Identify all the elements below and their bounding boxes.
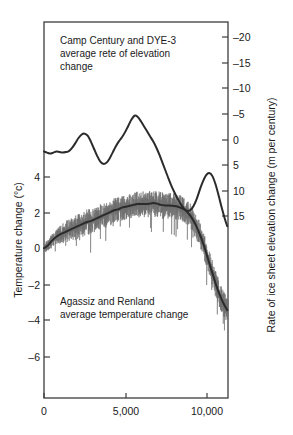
- annotation-temperature-line1: Agassiz and Renland: [60, 296, 155, 307]
- annotation-temperature: Agassiz and Renland average temperature …: [60, 296, 189, 320]
- right-tick-label: 15: [233, 210, 245, 222]
- bottom-tick-label: 0: [41, 405, 47, 417]
- left-tick-label: 2: [34, 207, 40, 219]
- bottom-tick-label: 10,000: [191, 405, 223, 417]
- annotation-elevation-line3: change: [60, 61, 93, 72]
- annotation-elevation-line2: average rete of elevation: [60, 48, 170, 59]
- right-tick-label: 5: [233, 159, 239, 171]
- right-tick-label: –15: [233, 57, 251, 69]
- right-tick-label: –10: [233, 82, 251, 94]
- left-axis-title: Temperature change (°c): [12, 182, 24, 298]
- annotation-elevation: Camp Century and DYE-3 average rete of e…: [60, 35, 177, 72]
- left-axis: 4 2 0 –2 –4 –6: [28, 171, 50, 363]
- annotation-elevation-line1: Camp Century and DYE-3: [60, 35, 177, 46]
- left-tick-label: 0: [34, 242, 40, 254]
- bottom-axis: 0 5,000 10,000: [41, 393, 223, 417]
- right-axis: –20 –15 –10 –5 0 5 10 15: [222, 31, 251, 222]
- annotation-temperature-line2: average temperature change: [60, 309, 189, 320]
- right-tick-label: –20: [233, 31, 251, 43]
- figure-container: 4 2 0 –2 –4 –6 –20 –15 –10 –5 0: [0, 0, 293, 435]
- left-tick-label: –4: [28, 314, 40, 326]
- left-tick-label: 4: [34, 171, 40, 183]
- left-tick-label: –2: [28, 279, 40, 291]
- right-tick-label: 0: [233, 134, 239, 146]
- right-axis-title: Rate of ice sheet elevation change (m pe…: [265, 97, 277, 332]
- left-tick-label: –6: [28, 351, 40, 363]
- right-tick-label: –5: [233, 108, 245, 120]
- bottom-tick-label: 5,000: [113, 405, 139, 417]
- chart-canvas: 4 2 0 –2 –4 –6 –20 –15 –10 –5 0: [0, 0, 293, 435]
- right-tick-label: 10: [233, 185, 245, 197]
